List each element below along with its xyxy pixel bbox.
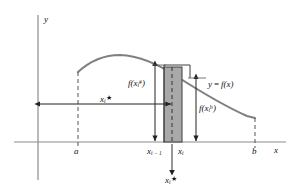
lh-close: ) [142, 78, 145, 88]
fn-eq: = [214, 79, 219, 89]
sample-point-leader [169, 148, 175, 176]
hd-star: ★ [106, 94, 112, 102]
bsp-star: ★ [171, 175, 177, 183]
figure-canvas [0, 0, 295, 194]
point-label-x-i-minus-1: xi − 1 [147, 147, 162, 157]
x-right-sub: i [182, 150, 184, 156]
fn-arg: (x) [224, 79, 234, 89]
right-height-label: f(xib) [199, 104, 216, 114]
horizontal-distance-label: xi★ [100, 95, 112, 105]
x-axis-label: x [274, 146, 278, 155]
left-height-label: f(xi#) [128, 79, 145, 89]
fn-y: y [208, 79, 212, 89]
rh-close: ) [213, 103, 216, 113]
function-equation-label: y=f(x) [208, 80, 234, 89]
point-label-a: a [74, 147, 79, 156]
point-label-b: b [252, 147, 257, 156]
riemann-sum-figure: y x a b xi − 1 xi y=f(x) f(xi#) f(xib) x… [0, 0, 295, 194]
point-label-x-i: xi [178, 147, 184, 157]
bottom-sample-point-label: xi★ [165, 176, 177, 186]
y-axis-label: y [44, 15, 48, 24]
x-left-sub: i − 1 [151, 150, 162, 156]
